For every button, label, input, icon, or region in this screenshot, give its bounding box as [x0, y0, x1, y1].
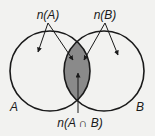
- venn-svg: n(A) n(B) A B n(A ∩ B): [0, 0, 155, 136]
- intersection-label: n(A ∩ B): [57, 116, 103, 130]
- n-b-arrows: [84, 23, 118, 60]
- set-a-label: A: [9, 100, 18, 114]
- venn-diagram: n(A) n(B) A B n(A ∩ B): [0, 0, 155, 136]
- n-b-label: n(B): [94, 8, 117, 22]
- n-a-label: n(A): [37, 8, 60, 22]
- set-b-label: B: [136, 100, 144, 114]
